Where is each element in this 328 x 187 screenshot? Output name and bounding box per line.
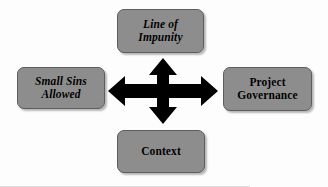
- node-label: Line of Impunity: [135, 18, 185, 44]
- diagram-canvas: Line of Impunity Small Sins Allowed Proj…: [0, 0, 328, 187]
- node-line-of-impunity[interactable]: Line of Impunity: [117, 9, 204, 53]
- node-small-sins-allowed[interactable]: Small Sins Allowed: [17, 67, 105, 109]
- image-edge-artifact: [0, 186, 250, 187]
- node-label: Project Governance: [234, 76, 300, 102]
- node-context[interactable]: Context: [117, 130, 205, 173]
- node-project-governance[interactable]: Project Governance: [223, 67, 312, 111]
- node-label: Small Sins Allowed: [32, 75, 90, 101]
- four-way-arrow-icon: [108, 58, 218, 124]
- node-label: Context: [138, 145, 184, 158]
